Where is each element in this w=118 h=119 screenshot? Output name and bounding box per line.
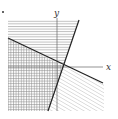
inequality-diagram: y x <box>0 0 118 119</box>
x-axis-label: x <box>106 62 111 72</box>
marker-dot <box>2 11 4 13</box>
y-axis-label: y <box>53 8 60 18</box>
